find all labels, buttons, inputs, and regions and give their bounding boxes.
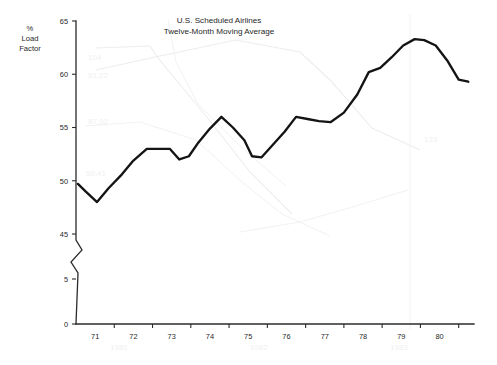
line-chart: 104 91.22 87.02 59.41 133 1981 1982 1983… xyxy=(0,0,497,365)
svg-text:1982: 1982 xyxy=(250,343,268,352)
svg-text:104: 104 xyxy=(88,53,102,62)
y-tick-label: 55 xyxy=(60,123,68,132)
x-tick-label: 72 xyxy=(129,332,137,341)
chart-title: U.S. Scheduled Airlines Twelve-Month Mov… xyxy=(164,16,275,36)
x-tick-label: 74 xyxy=(206,332,214,341)
svg-text:Twelve-Month Moving Average: Twelve-Month Moving Average xyxy=(164,27,275,36)
y-tick-label: 0 xyxy=(64,320,68,329)
svg-text:133: 133 xyxy=(424,135,438,144)
x-tick-label: 77 xyxy=(321,332,329,341)
y-tick-label: 5 xyxy=(64,275,68,284)
y-axis-tick-labels: 054550556065 xyxy=(60,17,68,329)
svg-text:59.41: 59.41 xyxy=(86,169,107,178)
x-tick-label: 73 xyxy=(168,332,176,341)
y-axis-title: % Load Factor xyxy=(19,24,41,53)
x-tick-label: 78 xyxy=(359,332,367,341)
svg-text:Factor: Factor xyxy=(19,44,41,53)
x-tick-label: 76 xyxy=(282,332,290,341)
chart-container: 104 91.22 87.02 59.41 133 1981 1982 1983… xyxy=(0,0,497,365)
y-tick-label: 50 xyxy=(60,177,68,186)
svg-text:Load: Load xyxy=(22,34,39,43)
y-tick-label: 45 xyxy=(60,230,68,239)
x-tick-label: 71 xyxy=(91,332,99,341)
svg-text:1983: 1983 xyxy=(390,343,408,352)
x-tick-label: 75 xyxy=(244,332,252,341)
x-tick-label: 79 xyxy=(397,332,405,341)
y-tick-label: 60 xyxy=(60,70,68,79)
x-axis-tick-labels: 71727374757677787980 xyxy=(91,332,444,341)
svg-text:1981: 1981 xyxy=(110,343,128,352)
y-tick-label: 65 xyxy=(60,17,68,26)
svg-text:U.S. Scheduled Airlines: U.S. Scheduled Airlines xyxy=(177,16,262,25)
x-tick-label: 80 xyxy=(435,332,443,341)
svg-text:91.22: 91.22 xyxy=(88,71,109,80)
axes: 054550556065 71727374757677787980 xyxy=(60,17,474,341)
svg-text:%: % xyxy=(27,24,34,33)
svg-text:87.02: 87.02 xyxy=(88,117,109,126)
